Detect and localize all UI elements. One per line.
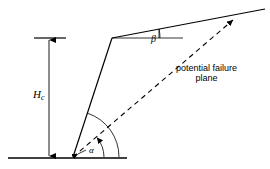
height-subscript: c	[41, 93, 45, 102]
failure-plane-line-2: plane	[176, 73, 237, 83]
surface-angle-label: β	[151, 33, 156, 44]
slope-angle-label: α	[89, 145, 94, 155]
height-symbol: H	[33, 88, 41, 100]
upper-surface-line	[112, 9, 265, 38]
failure-plane-line-1: potential failure	[176, 63, 237, 73]
alpha-angle-arc	[97, 138, 104, 157]
potential-failure-plane-label: potential failure plane	[176, 63, 237, 83]
diagram-canvas	[0, 0, 270, 169]
alpha-leader-tick	[78, 150, 86, 154]
slope-face-line	[73, 38, 112, 157]
critical-height-label: Hc	[33, 88, 45, 102]
slope-stability-diagram: Hc β α potential failure plane	[0, 0, 270, 169]
